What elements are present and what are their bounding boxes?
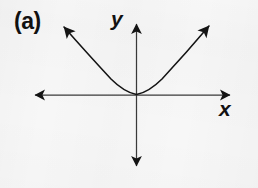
x-axis-label: x <box>219 98 231 119</box>
figure-panel: (a) y x <box>0 0 258 188</box>
y-axis-label: y <box>111 8 123 29</box>
panel-label: (a) <box>14 10 41 33</box>
